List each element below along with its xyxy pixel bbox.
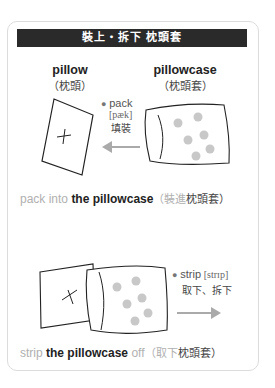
ipa-strip: [strɪp] — [204, 269, 228, 280]
verb-zh-pack: 填裝 — [111, 120, 132, 135]
strip-illustration — [35, 260, 170, 340]
verb-zh-strip: 取下、拆下 — [182, 282, 232, 297]
pillow-en: pillow — [40, 63, 100, 77]
caption-strip-verb: strip — [20, 346, 46, 360]
pillow-label: pillow （枕頭） — [40, 63, 100, 93]
arrow-right-icon — [175, 306, 225, 320]
page-title: 裝上・拆下 枕頭套 — [17, 29, 247, 47]
pillow-illustration — [30, 95, 110, 185]
pillowcase-label: pillowcase （枕頭套） — [140, 63, 230, 93]
ipa-pack: [pæk] — [109, 109, 132, 120]
caption-pack-verb: pack into — [20, 192, 71, 206]
caption-pack-zh-object: 枕頭套） — [186, 193, 230, 206]
pillowcase-en: pillowcase — [140, 63, 230, 77]
caption-strip-object: the pillowcase — [46, 346, 128, 360]
caption-strip-particle: off — [128, 346, 144, 360]
caption-strip: strip the pillowcase off（取下枕頭套） — [20, 344, 222, 360]
caption-pack-object: the pillowcase — [71, 192, 153, 206]
bullet-icon: ● — [172, 270, 177, 280]
pack-note: ● pack [pæk] 填裝 — [101, 97, 132, 135]
arrow-left-icon — [100, 140, 145, 154]
caption-pack: pack into the pillowcase（裝進枕頭套） — [20, 190, 230, 206]
caption-strip-zh-object: 枕頭套） — [178, 347, 222, 360]
caption-strip-zh-verb: （取下 — [145, 347, 178, 360]
pillowcase-illustration — [140, 95, 240, 175]
pillowcase-zh: （枕頭套） — [140, 77, 230, 93]
caption-pack-zh-verb: （裝進 — [153, 193, 186, 206]
verb-pack: pack — [109, 97, 132, 109]
strip-note: ● strip [strɪp] 取下、拆下 — [172, 268, 232, 297]
verb-strip: strip — [180, 268, 201, 280]
bullet-icon: ● — [101, 99, 106, 109]
pillow-zh: （枕頭） — [40, 77, 100, 93]
